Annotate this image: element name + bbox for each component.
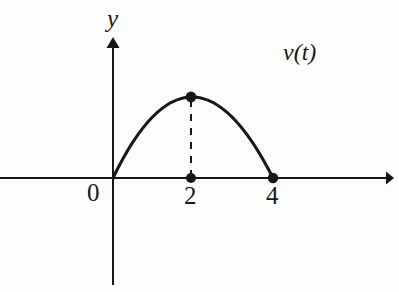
origin-tick-label: 0 (87, 180, 100, 205)
x-axis-arrowhead-icon (386, 172, 394, 185)
velocity-curve (113, 97, 273, 178)
graph-canvas (0, 0, 399, 292)
y-axis-arrowhead-icon (107, 37, 120, 48)
velocity-graph-figure: y v(t) 0 2 4 (0, 0, 399, 292)
y-axis-label: y (107, 6, 118, 31)
x-tick-label-4: 4 (266, 183, 279, 208)
x-tick-label-2: 2 (184, 183, 197, 208)
vertex-point-marker (186, 92, 197, 103)
curve-label-vt: v(t) (283, 40, 316, 64)
